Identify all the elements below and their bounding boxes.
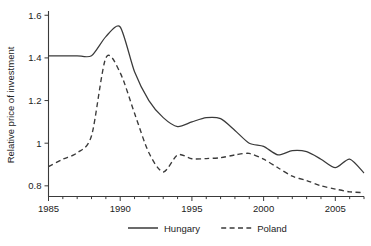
- y-tick-label: 1.2: [28, 95, 41, 106]
- y-axis-title-label: Relative price of investment: [5, 46, 16, 163]
- x-tick-label: 1990: [110, 203, 131, 214]
- y-tick-label: 1: [36, 138, 41, 149]
- chart-container: Relative price of investment 0.811.21.41…: [0, 0, 371, 246]
- y-axis-ticks: 0.811.21.41.6: [28, 10, 48, 192]
- x-axis-ticks: 19851990199520002005: [38, 197, 346, 215]
- x-tick-label: 1995: [181, 203, 202, 214]
- legend-label-hungary: Hungary: [164, 223, 200, 234]
- chart-legend: HungaryPoland: [128, 223, 287, 234]
- legend-label-poland: Poland: [257, 223, 287, 234]
- x-tick-label: 2000: [253, 203, 274, 214]
- y-tick-label: 0.8: [28, 180, 41, 191]
- y-tick-label: 1.6: [28, 10, 41, 21]
- series-lines: [49, 26, 365, 193]
- series-line-poland: [49, 55, 365, 192]
- y-axis-title: Relative price of investment: [5, 46, 16, 163]
- relative-price-of-investment-line-chart: Relative price of investment 0.811.21.41…: [0, 0, 371, 246]
- x-tick-label: 1985: [38, 203, 59, 214]
- x-tick-label: 2005: [325, 203, 346, 214]
- series-line-hungary: [49, 26, 365, 173]
- y-tick-label: 1.4: [28, 52, 41, 63]
- axis-lines: [49, 11, 365, 197]
